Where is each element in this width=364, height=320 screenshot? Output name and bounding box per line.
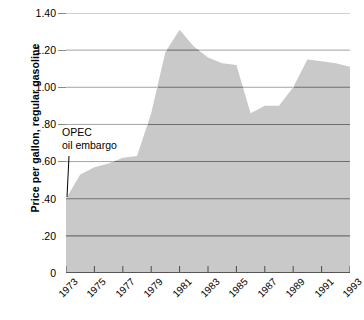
y-tick-label-2: 1.20 — [18, 45, 56, 55]
y-tick-label-1: 1.40 — [18, 8, 56, 18]
y-tick-label-5: .60 — [18, 156, 56, 166]
opec-annotation-line1: OPEC — [62, 126, 117, 139]
x-axis-tick-labels: 1973197519771979198119831985198719891991… — [66, 276, 356, 320]
opec-annotation-line2: oil embargo — [62, 139, 117, 152]
y-tick-label-6: .40 — [18, 194, 56, 204]
y-tick-label-3: 1.00 — [18, 82, 56, 92]
x-tick-label-1981: 1981 — [162, 276, 194, 308]
y-stub-tick-060 — [58, 161, 66, 162]
y-stub-tick-140 — [58, 13, 66, 14]
opec-annotation: OPEC oil embargo — [62, 126, 117, 152]
y-axis-tick-labels: 1.40 1.20 1.00 .80 .60 .40 .20 0 — [18, 0, 56, 320]
x-tick-label-1993: 1993 — [332, 276, 364, 308]
x-tick-label-1979: 1979 — [133, 276, 165, 308]
x-tick-label-1985: 1985 — [218, 276, 250, 308]
y-stub-tick-120 — [58, 50, 66, 51]
x-tick-label-1977: 1977 — [105, 276, 137, 308]
y-stub-tick-080 — [58, 124, 66, 125]
x-tick-label-1989: 1989 — [275, 276, 307, 308]
y-tick-label-4: .80 — [18, 119, 56, 129]
y-tick-label-8: 0 — [18, 268, 56, 278]
x-tick-label-1975: 1975 — [76, 276, 108, 308]
y-tick-label-7: .20 — [18, 231, 56, 241]
x-tick-label-1983: 1983 — [190, 276, 222, 308]
x-tick-label-1991: 1991 — [304, 276, 336, 308]
y-stub-tick-100 — [58, 87, 66, 88]
x-tick-label-1987: 1987 — [247, 276, 279, 308]
